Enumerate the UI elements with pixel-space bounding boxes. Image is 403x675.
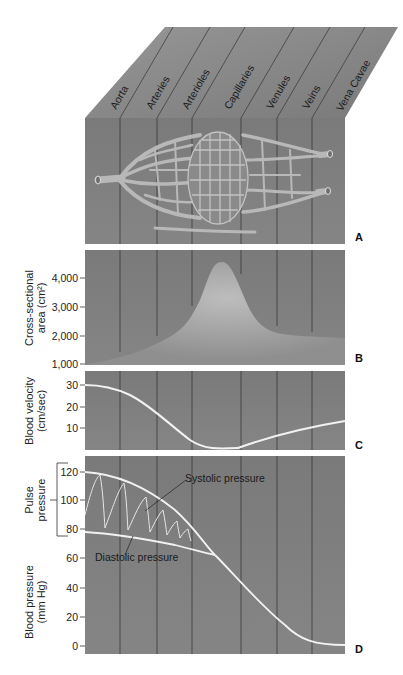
tick-d-20: 20	[66, 611, 78, 623]
tick-b-3000: 3,000	[52, 301, 78, 313]
column-header: Aorta Arteries Arterioles Capillaries Ve…	[85, 27, 398, 118]
panel-letter-a: A	[355, 231, 363, 243]
tick-d-100: 100	[60, 494, 78, 506]
panel-a: A	[85, 118, 363, 244]
panel-b-cross-sectional-area: 4,000 3,000 2,000 1,000 Cross-sectional …	[23, 250, 363, 370]
ylabel-c-line1: Blood velocity	[23, 377, 35, 445]
tick-d-120: 120	[60, 466, 78, 478]
ylabel-c-line2: (cm/sec)	[35, 390, 47, 432]
tick-b-2000: 2,000	[52, 330, 78, 342]
systolic-pressure-label: Systolic pressure	[185, 472, 265, 484]
tick-c-10: 10	[66, 422, 78, 434]
tick-d-40: 40	[66, 582, 78, 594]
ylabel-d-line1: Blood pressure	[23, 565, 35, 639]
pulse-pressure-label-line1: Pulse	[23, 486, 35, 514]
circulation-diagram: Aorta Arteries Arterioles Capillaries Ve…	[0, 0, 403, 675]
tick-d-80: 80	[66, 523, 78, 535]
tick-c-30: 30	[66, 379, 78, 391]
ylabel-d-line2: (mm Hg)	[35, 581, 47, 624]
tick-c-20: 20	[66, 401, 78, 413]
ylabel-b-line1: Cross-sectional	[23, 270, 35, 346]
tick-d-60: 60	[66, 552, 78, 564]
panel-c-blood-velocity: 30 20 10 Blood velocity (cm/sec) C	[23, 371, 363, 451]
panel-letter-d: D	[355, 643, 363, 655]
tick-d-0: 0	[72, 640, 78, 652]
capillary-bed	[188, 132, 248, 224]
ylabel-b-line2: area (cm²)	[35, 283, 47, 334]
tick-b-4000: 4,000	[52, 272, 78, 284]
diastolic-pressure-label: Diastolic pressure	[95, 551, 179, 563]
tick-b-1000: 1,000	[52, 358, 78, 370]
panel-letter-c: C	[355, 439, 363, 451]
panel-d-blood-pressure: Systolic pressure Diastolic pressure 120…	[23, 456, 363, 655]
pulse-pressure-label-line2: pressure	[35, 479, 47, 522]
panel-letter-b: B	[355, 352, 363, 364]
